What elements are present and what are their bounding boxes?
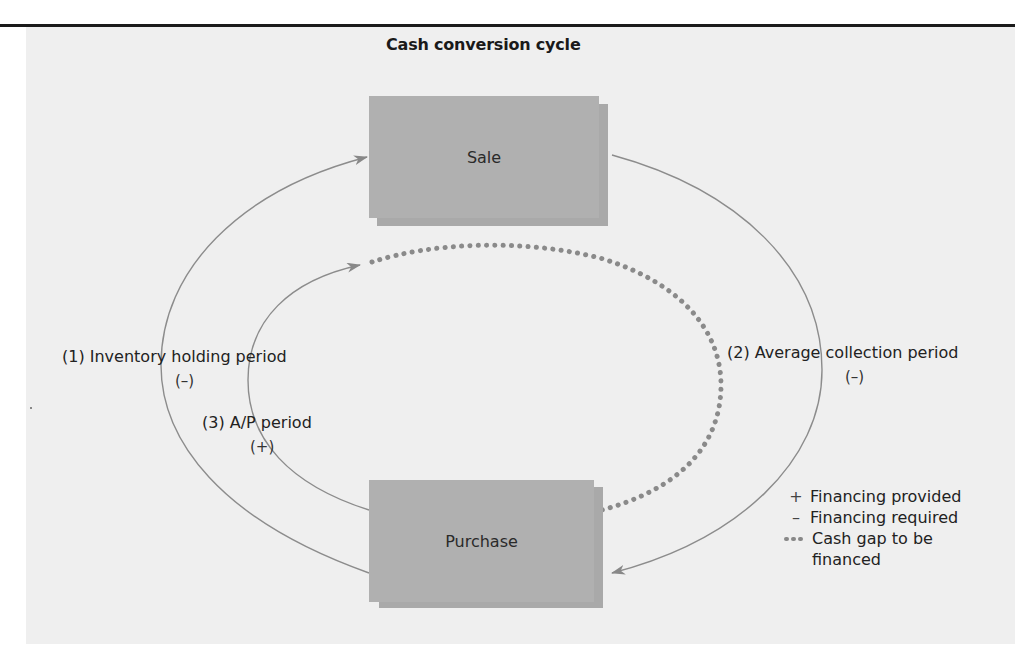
inventory-period-label: (1) Inventory holding period xyxy=(62,347,287,366)
inventory-period-sign: (–) xyxy=(175,372,194,390)
sale-node: Sale xyxy=(369,96,599,218)
purchase-node: Purchase xyxy=(369,480,594,602)
legend-label: Financing provided xyxy=(810,486,961,507)
ap-period-label: (3) A/P period xyxy=(202,413,312,432)
collection-period-sign: (–) xyxy=(845,368,864,386)
legend: + Financing provided – Financing require… xyxy=(782,486,961,570)
diagram-title: Cash conversion cycle xyxy=(386,35,581,54)
legend-label: Financing required xyxy=(810,507,958,528)
legend-item-cash-gap: Cash gap to be financed xyxy=(782,528,961,570)
legend-label-cont: financed xyxy=(812,550,881,569)
legend-item-financing-required: – Financing required xyxy=(782,507,961,528)
payables-arrow xyxy=(248,265,369,510)
cash-gap-dotted-line xyxy=(372,245,721,511)
legend-label: Cash gap to be xyxy=(812,529,933,548)
collection-period-label: (2) Average collection period xyxy=(727,343,958,362)
legend-item-financing-provided: + Financing provided xyxy=(782,486,961,507)
plus-icon: + xyxy=(782,486,810,507)
dotted-line-icon xyxy=(782,528,812,541)
ap-period-sign: (+) xyxy=(250,438,274,456)
purchase-label: Purchase xyxy=(445,532,518,551)
sale-label: Sale xyxy=(467,148,501,167)
minus-icon: – xyxy=(782,507,810,528)
